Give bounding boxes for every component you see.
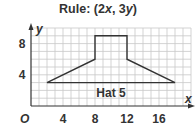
figure-label: Hat 5 bbox=[96, 86, 126, 100]
y-axis-label: y bbox=[35, 22, 44, 36]
origin-label: O bbox=[20, 112, 30, 126]
x-axis-label: x bbox=[184, 92, 193, 106]
x-tick-16: 16 bbox=[152, 112, 166, 126]
coordinate-grid: y x O 4 8 12 16 8 4 Hat 5 bbox=[0, 0, 196, 131]
x-tick-8: 8 bbox=[92, 112, 99, 126]
y-tick-4: 4 bbox=[19, 68, 26, 82]
x-tick-4: 4 bbox=[60, 112, 67, 126]
x-tick-12: 12 bbox=[120, 112, 134, 126]
y-tick-8: 8 bbox=[19, 37, 26, 51]
y-axis-arrow-icon bbox=[29, 23, 34, 30]
